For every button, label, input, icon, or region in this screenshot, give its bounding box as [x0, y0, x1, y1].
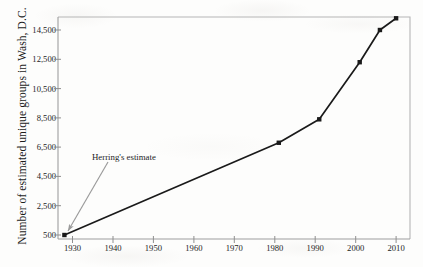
line-chart-figure: Number of estimated unique groups in Was…: [0, 0, 423, 267]
chart-canvas: [0, 0, 423, 267]
plot-frame-top-right: [58, 17, 410, 239]
data-point-marker: [378, 28, 382, 32]
data-line-estimated-unique-groups: [64, 18, 396, 235]
data-point-marker: [317, 117, 321, 121]
data-point-markers: [62, 16, 398, 237]
data-point-marker: [62, 233, 66, 237]
data-point-marker: [394, 16, 398, 20]
data-point-marker: [277, 141, 281, 145]
data-point-marker: [358, 60, 362, 64]
annotation-leader-arrow: [68, 162, 108, 231]
